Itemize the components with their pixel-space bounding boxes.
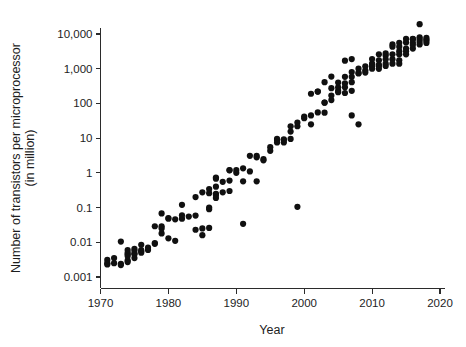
data-point [233,167,239,173]
data-point [288,128,294,134]
data-point [240,165,246,171]
data-point [321,99,327,105]
data-point [349,74,355,80]
chart-canvas: 0.0010.010.11101001,00010,000 1970198019… [0,0,466,347]
data-point [410,42,416,48]
y-tick-label: 0.1 [77,202,93,214]
data-point [213,184,219,190]
y-tick-label: 10,000 [57,28,92,40]
data-point [159,210,165,216]
x-tick-label: 2020 [427,297,453,309]
data-point [254,154,260,160]
data-point [389,51,395,57]
data-point [199,232,205,238]
data-point [281,136,287,142]
data-point [288,136,294,142]
data-point [376,51,382,57]
data-point [355,66,361,72]
data-point [247,153,253,159]
x-tick-label: 1990 [224,297,250,309]
data-point [321,79,327,85]
data-point [192,212,198,218]
data-point [152,240,158,246]
data-point [179,202,185,208]
data-point [118,238,124,244]
data-point [220,179,226,185]
data-points-layer [104,21,429,268]
data-point [342,84,348,90]
data-point [328,74,334,80]
data-point [315,88,321,94]
data-point [125,247,131,253]
data-point [152,223,158,229]
data-point [159,225,165,231]
data-point [165,215,171,221]
data-point [383,50,389,56]
data-point [199,225,205,231]
y-tick-label: 0.01 [70,236,92,248]
transistor-count-scatter-chart: 0.0010.010.11101001,00010,000 1970198019… [0,0,466,347]
data-point [240,221,246,227]
y-tick-label: 0.001 [64,271,93,283]
x-tick-label: 1980 [156,297,182,309]
data-point [274,139,280,145]
data-point [362,63,368,69]
data-point [125,253,131,259]
data-point [403,39,409,45]
x-tick-label: 1970 [88,297,114,309]
data-point [192,194,198,200]
data-point [192,227,198,233]
data-point [410,36,416,42]
data-point [369,56,375,62]
data-point [349,56,355,62]
x-tick-label: 2010 [359,297,385,309]
data-point [240,178,246,184]
data-point [308,112,314,118]
data-point [308,121,314,127]
data-point [335,79,341,85]
data-point [389,61,395,67]
data-point [423,35,429,41]
data-point [247,168,253,174]
data-point [226,177,232,183]
plot-axes [101,28,446,289]
data-point [383,63,389,69]
y-axis-ticks: 0.0010.010.11101001,00010,000 [57,28,100,283]
data-point [131,255,137,261]
data-point [125,259,131,265]
data-point [118,261,124,267]
data-point [383,56,389,62]
data-point [260,157,266,163]
data-point [220,189,226,195]
data-point [349,88,355,94]
data-point [308,91,314,97]
data-point [138,250,144,256]
data-point [131,246,137,252]
data-point [335,89,341,95]
data-point [294,204,300,210]
data-point [315,109,321,115]
data-point [396,51,402,57]
y-tick-label: 1 [86,167,92,179]
data-point [172,238,178,244]
data-point [355,121,361,127]
data-point [389,44,395,50]
data-point [145,245,151,251]
data-point [417,21,423,27]
data-point [111,260,117,266]
data-point [376,57,382,63]
y-tick-label: 10 [80,132,93,144]
data-point [328,92,334,98]
data-point [226,188,232,194]
data-point [321,110,327,116]
data-point [328,85,334,91]
data-point [254,178,260,184]
data-point [349,79,355,85]
data-point [267,148,273,154]
data-point [206,225,212,231]
data-point [417,36,423,42]
data-point [376,66,382,72]
y-tick-label: 100 [73,97,92,109]
data-point [226,167,232,173]
x-axis-ticks: 197019801990200020102020 [88,289,453,310]
